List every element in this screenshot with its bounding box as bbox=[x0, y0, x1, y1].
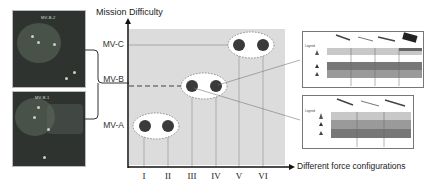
x-tick-1: I bbox=[134, 171, 154, 181]
force-table-bottom: Legend bbox=[302, 95, 414, 149]
x-tick-2: II bbox=[158, 171, 178, 181]
x-tick-5: V bbox=[229, 171, 249, 181]
x-tick-4: IV bbox=[206, 171, 226, 181]
table-grid bbox=[303, 32, 423, 87]
force-table-top: Legend bbox=[302, 31, 424, 88]
x-tick-3: III bbox=[182, 171, 202, 181]
y-axis-title: Mission Difficulty bbox=[96, 7, 163, 17]
y-tick-mv-b: MV-B bbox=[94, 74, 124, 84]
x-tick-6: VI bbox=[253, 171, 273, 181]
table-grid bbox=[303, 96, 413, 148]
chart-svg bbox=[0, 0, 435, 187]
y-tick-mv-a: MV-A bbox=[94, 120, 124, 130]
y-tick-mv-c: MV-C bbox=[94, 39, 124, 49]
x-axis-title: Different force configurations bbox=[297, 161, 406, 171]
